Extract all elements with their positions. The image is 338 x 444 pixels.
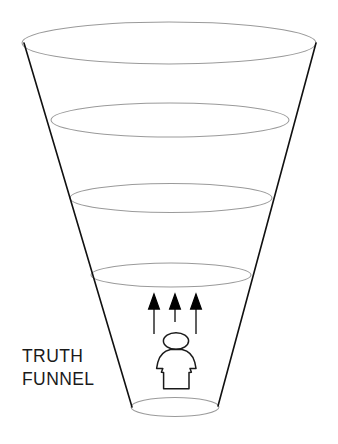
person-head	[163, 333, 188, 349]
funnel-illustration: TRUTH FUNNEL	[0, 0, 338, 444]
person-body	[157, 350, 196, 389]
arrow-center-icon	[170, 294, 181, 322]
caption-line-funnel: FUNNEL	[22, 369, 94, 389]
person-figure-icon	[157, 333, 196, 389]
arrow-left-icon	[149, 294, 160, 334]
funnel-ring-third	[70, 184, 272, 213]
flow-arrows-group	[149, 294, 202, 334]
truth-funnel-diagram: TRUTH FUNNEL	[0, 0, 338, 444]
funnel-ring-second	[51, 103, 289, 137]
arrow-right-icon	[191, 294, 202, 334]
caption-line-truth: TRUTH	[22, 346, 83, 366]
funnel-ring-fourth	[91, 263, 251, 287]
funnel-side-right-line	[218, 43, 316, 406]
funnel-ring-bottom	[131, 398, 219, 417]
caption-group: TRUTH FUNNEL	[22, 346, 94, 389]
funnel-ring-top	[22, 22, 316, 64]
